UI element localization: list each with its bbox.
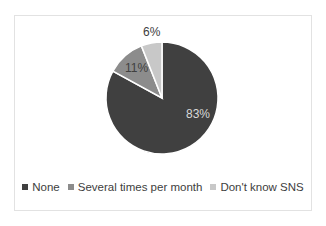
legend: None Several times per month Don't know …: [0, 181, 326, 193]
legend-label: Don't know SNS: [220, 181, 303, 193]
legend-swatch-icon: [22, 184, 28, 190]
data-label-none: 83%: [186, 107, 210, 121]
legend-item-dont-know: Don't know SNS: [210, 181, 303, 193]
legend-swatch-icon: [68, 184, 74, 190]
data-label-dont-know: 6%: [143, 25, 160, 39]
legend-item-several-times: Several times per month: [68, 181, 203, 193]
data-label-several-times: 11%: [125, 61, 148, 75]
legend-item-none: None: [22, 181, 60, 193]
legend-label: None: [32, 181, 60, 193]
legend-swatch-icon: [210, 184, 216, 190]
legend-label: Several times per month: [78, 181, 203, 193]
